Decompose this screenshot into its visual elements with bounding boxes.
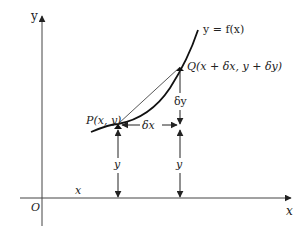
point-q-label: Q(x + δx, y + δy) <box>187 60 282 73</box>
chord-pq <box>118 67 180 124</box>
height-q: y <box>175 130 183 197</box>
x-axis-label: x <box>286 204 293 218</box>
delta-x-label: δx <box>142 119 156 132</box>
derivative-diagram: y x O y = f(x) P(x, y) Q(x + δx, y + δy)… <box>0 0 306 229</box>
x-distance-label: x <box>75 184 82 197</box>
height-p-label: y <box>113 158 121 171</box>
curve-label: y = f(x) <box>202 23 244 36</box>
axes: y x O <box>20 9 293 226</box>
point-p-label: P(x, y) <box>85 114 121 127</box>
y-axis-label: y <box>30 9 38 23</box>
height-q-label: y <box>175 158 183 171</box>
height-p: y <box>113 130 121 197</box>
delta-y-label: δy <box>174 95 188 108</box>
point-p: P(x, y) <box>85 114 122 129</box>
point-q: Q(x + δx, y + δy) <box>176 60 282 73</box>
origin-label: O <box>31 201 40 214</box>
